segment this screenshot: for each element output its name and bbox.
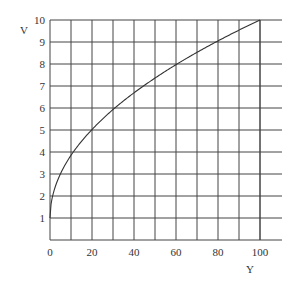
- x-axis-label: Y: [246, 263, 254, 275]
- y-tick-label: 8: [40, 58, 46, 70]
- axis-ticks: 02040608010012345678910: [34, 14, 269, 258]
- y-tick-label: 4: [40, 146, 46, 158]
- y-tick-label: 5: [40, 124, 46, 136]
- x-tick-label: 40: [129, 246, 141, 258]
- x-tick-label: 100: [252, 246, 269, 258]
- x-tick-label: 0: [47, 246, 53, 258]
- x-tick-label: 20: [87, 246, 99, 258]
- y-tick-label: 9: [40, 36, 46, 48]
- y-axis-label: V: [20, 24, 28, 36]
- y-tick-label: 6: [40, 102, 46, 114]
- grid: [50, 20, 282, 240]
- line-chart: 02040608010012345678910 V Y: [0, 0, 299, 289]
- y-tick-label: 10: [34, 14, 46, 26]
- y-tick-label: 1: [40, 212, 46, 224]
- x-tick-label: 80: [213, 246, 225, 258]
- y-tick-label: 2: [40, 190, 46, 202]
- x-tick-label: 60: [171, 246, 183, 258]
- y-tick-label: 7: [40, 80, 46, 92]
- y-tick-label: 3: [40, 168, 46, 180]
